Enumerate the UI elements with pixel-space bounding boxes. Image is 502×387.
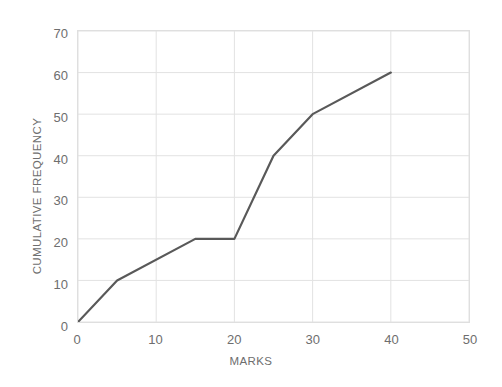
y-axis-tick-label: 50 [40, 108, 68, 126]
y-axis-title: CUMULATIVE FREQUENCY [31, 96, 43, 296]
y-axis-tick-label: 70 [40, 24, 68, 42]
y-axis-tick-label: 40 [40, 150, 68, 168]
y-axis-tick-label: 60 [40, 66, 68, 84]
x-axis-tick-label: 0 [57, 330, 97, 348]
y-axis-tick-label: 20 [40, 233, 68, 251]
x-axis-tick-label: 30 [293, 330, 333, 348]
x-axis-tick-label: 20 [214, 330, 254, 348]
x-axis-tick-label: 40 [371, 330, 411, 348]
y-axis-tick-label: 30 [40, 191, 68, 209]
x-axis-tick-label: 10 [136, 330, 176, 348]
y-axis-tick-label: 10 [40, 275, 68, 293]
x-axis-tick-label: 50 [450, 330, 490, 348]
cumulative-frequency-chart: 70 60 50 40 30 20 10 0 0 10 20 30 40 50 … [0, 0, 502, 387]
plot-area [77, 30, 470, 323]
data-series-line [78, 31, 469, 322]
x-axis-title: MARKS [0, 355, 502, 367]
